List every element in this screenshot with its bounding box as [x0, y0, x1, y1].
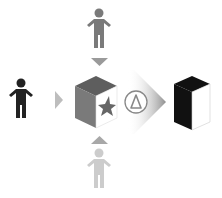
- person-icon: [8, 78, 34, 120]
- actor-bottom: [86, 148, 112, 190]
- actor-left: [8, 78, 34, 120]
- change-operator: [124, 90, 148, 114]
- result-cube: [172, 74, 212, 132]
- person-icon: [86, 148, 112, 190]
- arrow-right-icon: [55, 91, 63, 109]
- source-cube: [73, 74, 119, 130]
- actor-top: [86, 8, 112, 50]
- arrow-up-icon: [91, 136, 108, 144]
- delta-icon: [124, 90, 148, 114]
- arrow-down-icon: [91, 58, 108, 66]
- cube-with-star-icon: [73, 74, 119, 130]
- black-cube-icon: [172, 74, 212, 132]
- person-icon: [86, 8, 112, 50]
